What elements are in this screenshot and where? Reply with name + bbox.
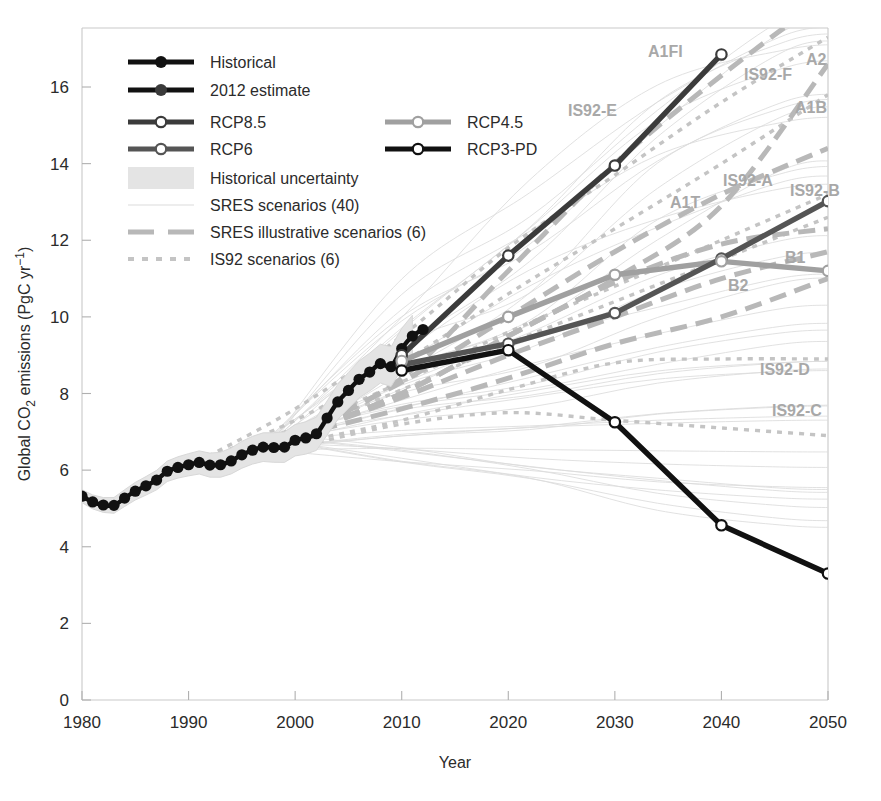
historical-point-marker: [162, 466, 173, 477]
x-axis-title: Year: [439, 754, 472, 771]
x-tick-label: 2030: [596, 713, 634, 732]
historical-point-marker: [407, 330, 418, 341]
x-tick-label: 2000: [276, 713, 314, 732]
x-tick-label: 1990: [170, 713, 208, 732]
scenario-label: B1: [785, 249, 806, 266]
figure-container: 0246810121416 19801990200020102020203020…: [0, 0, 881, 801]
scenario-label: IS92-A: [723, 172, 773, 189]
y-tick-label: 14: [50, 155, 69, 174]
historical-point-marker: [290, 435, 301, 446]
historical-point-marker: [194, 457, 205, 468]
historical-point-marker: [119, 492, 130, 503]
historical-point-marker: [87, 496, 98, 507]
scenario-label: IS92-B: [790, 182, 840, 199]
legend-label: SRES scenarios (40): [210, 197, 359, 214]
historical-point-marker: [364, 366, 375, 377]
legend-label: RCP4.5: [467, 114, 523, 131]
rcp-point-marker: [503, 312, 513, 322]
legend-swatch-marker: [156, 117, 166, 127]
x-tick-label: 2050: [809, 713, 847, 732]
historical-point-marker: [300, 432, 311, 443]
x-tick-label: 2040: [703, 713, 741, 732]
scenario-label: IS92-F: [744, 66, 792, 83]
rcp-point-marker: [503, 345, 513, 355]
y-tick-label: 12: [50, 231, 69, 250]
historical-point-marker: [151, 474, 162, 485]
rcp-point-marker: [610, 308, 620, 318]
historical-point-marker: [226, 455, 237, 466]
historical-point-marker: [353, 374, 364, 385]
historical-point-marker: [258, 442, 269, 453]
scenario-label: A2: [806, 51, 827, 68]
historical-point-marker: [172, 462, 183, 473]
historical-point-marker: [343, 385, 354, 396]
historical-point-marker: [204, 460, 215, 471]
y-axis-title-superscript: −1: [13, 252, 27, 266]
y-tick-label: 16: [50, 78, 69, 97]
historical-point-marker: [247, 445, 258, 456]
y-tick-label: 2: [60, 614, 69, 633]
rcp-point-marker: [716, 520, 726, 530]
legend-label: RCP6: [210, 141, 253, 158]
historical-point-marker: [332, 396, 343, 407]
plot-area-background: [82, 28, 828, 700]
historical-point-marker: [385, 361, 396, 372]
legend-swatch-marker: [413, 144, 423, 154]
legend-swatch-marker: [155, 84, 167, 96]
legend-swatch-band: [128, 167, 194, 189]
historical-point-marker: [108, 500, 119, 511]
historical-point-marker: [268, 442, 279, 453]
legend-label: Historical uncertainty: [210, 170, 359, 187]
rcp-point-marker: [823, 266, 833, 276]
historical-point-marker: [375, 358, 386, 369]
x-tick-label: 1980: [63, 713, 101, 732]
estimate-2012-marker: [417, 324, 428, 335]
legend-label: RCP3-PD: [467, 141, 537, 158]
y-tick-label: 6: [60, 461, 69, 480]
y-axis-title-close: ): [16, 247, 33, 252]
rcp-point-marker: [716, 49, 726, 59]
rcp-point-marker: [610, 160, 620, 170]
historical-point-marker: [279, 442, 290, 453]
historical-point-marker: [311, 428, 322, 439]
y-tick-label: 10: [50, 308, 69, 327]
y-axis-title-main: Global CO: [16, 407, 33, 482]
y-tick-label: 8: [60, 385, 69, 404]
historical-point-marker: [98, 499, 109, 510]
legend-label: SRES illustrative scenarios (6): [210, 224, 426, 241]
x-tick-label: 2020: [489, 713, 527, 732]
rcp-point-marker: [823, 568, 833, 578]
x-tick-label: 2010: [383, 713, 421, 732]
scenario-label: IS92-E: [568, 102, 617, 119]
rcp-point-marker: [503, 250, 513, 260]
scenario-label: A1B: [795, 99, 827, 116]
legend-label: Historical: [210, 54, 276, 71]
rcp-point-marker: [610, 417, 620, 427]
legend-label: 2012 estimate: [210, 82, 311, 99]
scenario-label: A1FI: [648, 43, 683, 60]
historical-point-marker: [140, 480, 151, 491]
rcp-point-marker: [397, 365, 407, 375]
rcp-point-marker: [716, 256, 726, 266]
co2-emissions-chart: 0246810121416 19801990200020102020203020…: [0, 0, 881, 801]
y-axis-title-units: emissions (PgC yr: [16, 265, 33, 400]
historical-point-marker: [215, 459, 226, 470]
legend-swatch-marker: [156, 144, 166, 154]
scenario-label: B2: [728, 277, 749, 294]
scenario-label: IS92-C: [772, 402, 822, 419]
legend-swatch-marker: [155, 56, 167, 68]
y-tick-label: 4: [60, 538, 69, 557]
historical-point-marker: [183, 459, 194, 470]
historical-point-marker: [130, 486, 141, 497]
scenario-label: A1T: [670, 194, 700, 211]
rcp-point-marker: [610, 270, 620, 280]
historical-point-marker: [236, 449, 247, 460]
scenario-label: IS92-D: [760, 361, 810, 378]
y-tick-label: 0: [60, 691, 69, 710]
legend-swatch-marker: [413, 117, 423, 127]
y-axis-title: Global CO2 emissions (PgC yr−1): [13, 247, 38, 482]
historical-point-marker: [76, 491, 87, 502]
legend-label: RCP8.5: [210, 114, 266, 131]
legend-label: IS92 scenarios (6): [210, 251, 340, 268]
historical-point-marker: [322, 412, 333, 423]
